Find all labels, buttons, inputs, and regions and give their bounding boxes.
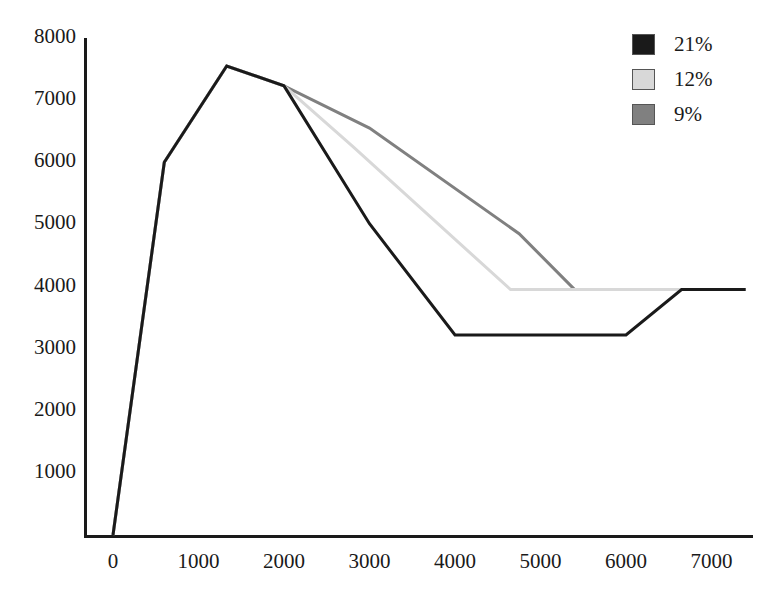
line-chart: 10002000300040005000600070008000 0100020… — [0, 0, 770, 607]
x-tick-label: 2000 — [239, 549, 329, 574]
legend-swatch-icon — [632, 104, 655, 125]
legend-label: 21% — [674, 32, 713, 57]
y-tick-label: 8000 — [4, 24, 76, 49]
series-lines — [113, 66, 746, 535]
x-tick-label: 6000 — [581, 549, 671, 574]
x-tick-label: 7000 — [667, 549, 757, 574]
chart-legend: 21%12%9% — [632, 33, 713, 126]
y-tick-label: 1000 — [4, 459, 76, 484]
y-tick-label: 2000 — [4, 397, 76, 422]
x-tick-label: 0 — [68, 549, 158, 574]
y-tick-label: 6000 — [4, 148, 76, 173]
y-tick-label: 5000 — [4, 210, 76, 235]
legend-swatch-icon — [632, 34, 655, 55]
x-tick-label: 5000 — [496, 549, 586, 574]
legend-label: 12% — [674, 67, 713, 92]
legend-item: 12% — [632, 68, 713, 91]
y-tick-label: 7000 — [4, 86, 76, 111]
x-tick-label: 4000 — [410, 549, 500, 574]
x-tick-label: 3000 — [325, 549, 415, 574]
y-tick-label: 4000 — [4, 273, 76, 298]
series-line-21pct — [113, 66, 746, 535]
legend-label: 9% — [674, 102, 702, 127]
legend-swatch-icon — [632, 69, 655, 90]
legend-item: 9% — [632, 103, 713, 126]
x-tick-label: 1000 — [154, 549, 244, 574]
y-tick-label: 3000 — [4, 335, 76, 360]
legend-item: 21% — [632, 33, 713, 56]
